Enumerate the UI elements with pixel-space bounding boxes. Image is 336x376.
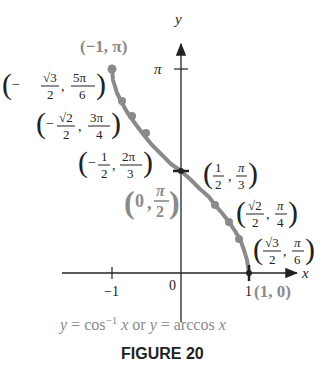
svg-text:): )	[288, 195, 298, 229]
svg-text:,: ,	[266, 207, 270, 222]
svg-text:(: (	[203, 156, 213, 190]
label-0-pi2: ( 0 , π 2 )	[124, 182, 180, 220]
label-half-pi3: ( 1 2 , π 3 )	[203, 156, 258, 192]
svg-text:,: ,	[147, 193, 152, 213]
svg-text:6: 6	[79, 87, 86, 102]
svg-text:5π: 5π	[73, 70, 87, 85]
label-sqrt2-pi4: ( √2 2 , π 4 )	[236, 195, 298, 230]
svg-text:√2: √2	[59, 110, 73, 125]
svg-text:): )	[305, 232, 315, 266]
svg-text:2: 2	[269, 252, 276, 267]
svg-text:3π: 3π	[90, 110, 104, 125]
svg-text:): )	[96, 67, 106, 101]
pi-tick-label: π	[154, 61, 162, 77]
svg-text:1: 1	[101, 149, 108, 164]
svg-text:): )	[143, 145, 153, 179]
svg-text:−: −	[46, 116, 54, 131]
svg-text:2: 2	[47, 87, 54, 102]
svg-text:(: (	[78, 145, 88, 179]
y-axis-label: y	[173, 11, 182, 27]
svg-text:−: −	[12, 77, 20, 92]
svg-text:6: 6	[294, 252, 301, 267]
svg-text:(: (	[236, 195, 246, 229]
svg-text:π: π	[277, 198, 284, 213]
point-half	[211, 201, 219, 209]
label-neg-half-2pi3: ( − 1 2 , 2π 3 )	[78, 145, 153, 181]
svg-text:2: 2	[63, 127, 70, 142]
svg-text:,: ,	[283, 244, 287, 259]
point-sqrt3-2	[235, 235, 243, 243]
label-sqrt3-pi6: ( √3 2 , π 6 )	[253, 232, 315, 267]
svg-text:(: (	[36, 106, 46, 140]
x-axis-label: x	[301, 265, 309, 281]
svg-text:√3: √3	[265, 235, 279, 250]
svg-text:π: π	[238, 160, 245, 175]
tick-label-neg1: −1	[104, 284, 119, 299]
svg-text:1: 1	[215, 160, 222, 175]
svg-text:4: 4	[277, 215, 284, 230]
svg-text:π: π	[294, 235, 301, 250]
svg-text:0: 0	[135, 191, 144, 211]
svg-text:): )	[169, 184, 180, 220]
svg-text:4: 4	[96, 127, 103, 142]
svg-text:√3: √3	[43, 70, 57, 85]
point-neg-half	[142, 129, 150, 137]
label-neg-sqrt3-5pi6: ( − √3 2 , 5π 6 )	[2, 67, 106, 102]
svg-text:(: (	[124, 184, 135, 220]
svg-text:3: 3	[238, 177, 245, 192]
point-neg-sqrt2-2	[128, 112, 136, 120]
svg-text:,: ,	[228, 169, 232, 184]
label-1-0: (1, 0)	[254, 282, 291, 301]
svg-text:−: −	[88, 155, 96, 170]
svg-text:): )	[248, 156, 258, 190]
svg-text:): )	[111, 106, 121, 140]
svg-text:2π: 2π	[122, 149, 136, 164]
arccos-figure: y x π −1 0 1 (−1, π) ( − √3 2 , 5π 6 ) (…	[0, 0, 336, 376]
tick-label-0: 0	[169, 278, 176, 293]
tick-label-1: 1	[245, 284, 252, 299]
svg-text:2: 2	[252, 215, 259, 230]
svg-text:2: 2	[156, 203, 164, 220]
point-sqrt2-2	[225, 218, 233, 226]
svg-text:3: 3	[127, 166, 134, 181]
svg-text:π: π	[156, 182, 166, 199]
svg-text:,: ,	[78, 119, 82, 134]
svg-text:2: 2	[215, 177, 222, 192]
caption-formula: y = cos−1 x or y = arccos x	[58, 314, 226, 334]
svg-text:(: (	[253, 232, 263, 266]
label-neg-sqrt2-3pi4: ( − √2 2 , 3π 4 )	[36, 106, 121, 142]
label-neg1-pi: (−1, π)	[80, 37, 127, 56]
point-neg1-pi	[108, 65, 117, 74]
point-neg-sqrt3-2	[118, 97, 126, 105]
svg-text:√2: √2	[248, 198, 262, 213]
svg-text:(: (	[2, 67, 12, 101]
svg-text:2: 2	[101, 166, 108, 181]
figure-label: FIGURE 20	[121, 345, 204, 362]
svg-text:,: ,	[61, 79, 65, 94]
svg-text:,: ,	[112, 158, 116, 173]
